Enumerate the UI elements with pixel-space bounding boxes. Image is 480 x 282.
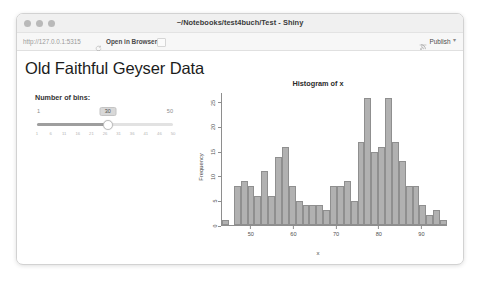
histogram-bar [248, 186, 255, 225]
y-tick-text: 5 [212, 200, 218, 203]
snapshot-button[interactable] [157, 38, 166, 47]
histogram-bar [419, 205, 426, 225]
open-in-browser-button[interactable]: Open in Browser [106, 38, 157, 45]
slider-value-bubble: 30 [99, 107, 116, 116]
slider-tick: 6 [49, 131, 51, 136]
x-tick-text: 70 [333, 231, 339, 237]
histogram-bar [261, 171, 268, 225]
histogram-bar [337, 186, 344, 225]
x-axis-tick: 90 [418, 226, 424, 237]
histogram-bar [282, 147, 289, 225]
histogram-bar [222, 220, 229, 225]
x-tick-text: 50 [248, 231, 254, 237]
y-tick-mark [218, 176, 221, 177]
app-window: ~/Notebooks/test4buch/Test - Shiny http:… [16, 13, 464, 265]
histogram-bar [254, 196, 261, 225]
url-text[interactable]: http://127.0.0.1:5315 [23, 38, 81, 45]
page-title: Old Faithful Geyser Data [25, 59, 204, 78]
histogram-bar [316, 205, 323, 225]
slider-tick: 36 [130, 131, 135, 136]
x-tick-mark [293, 226, 294, 229]
x-tick-mark [421, 226, 422, 229]
y-tick-mark [218, 226, 221, 227]
slider-label: Number of bins: [35, 93, 175, 102]
y-axis-tick: 0 [213, 223, 221, 229]
histogram-bar [406, 186, 413, 225]
publish-icon [419, 37, 427, 45]
histogram-bar [433, 210, 440, 225]
histogram-bar [351, 201, 358, 225]
y-axis-tick: 25 [210, 100, 221, 106]
y-axis-tick: 20 [210, 124, 221, 130]
slider-tick: 1 [36, 131, 38, 136]
shiny-app-content: Old Faithful Geyser Data Number of bins:… [17, 51, 463, 263]
bins-slider[interactable] [37, 119, 173, 130]
histogram-bar [399, 161, 406, 225]
chevron-down-icon[interactable]: ▾ [453, 38, 456, 44]
histogram-bar [296, 201, 303, 225]
y-tick-text: 25 [210, 100, 216, 106]
histogram-bar [392, 142, 399, 225]
histogram-bar [385, 98, 392, 225]
x-axis-tick: 80 [376, 226, 382, 237]
slider-max-label: 50 [167, 108, 173, 114]
plot-title: Histogram of x [183, 79, 453, 88]
histogram-bar [440, 220, 447, 225]
publish-control[interactable]: Publish ▾ [419, 37, 456, 45]
histogram-bar [330, 186, 337, 225]
x-tick-text: 90 [418, 231, 424, 237]
slider-tick: 26 [103, 131, 108, 136]
x-axis-tick: 60 [290, 226, 296, 237]
y-tick-text: 20 [210, 124, 216, 130]
y-tick-text: 0 [212, 225, 218, 228]
x-tick-mark [336, 226, 337, 229]
histogram-bar [268, 196, 275, 225]
y-tick-mark [218, 201, 221, 202]
histogram-bar [371, 152, 378, 225]
plot-area: 05101520255060708090 [221, 93, 447, 226]
x-tick-text: 80 [376, 231, 382, 237]
y-axis-label: Frequency [198, 153, 204, 180]
y-tick-text: 10 [210, 174, 216, 180]
x-tick-mark [250, 226, 251, 229]
publish-label: Publish [430, 38, 451, 45]
x-axis-label: x [183, 250, 453, 256]
x-axis-tick: 70 [333, 226, 339, 237]
histogram-bar [309, 205, 316, 225]
y-tick-mark [218, 102, 221, 103]
slider-tick: 46 [157, 131, 162, 136]
histogram-bar [241, 181, 248, 225]
slider-tick-labels: 16111621263136414650 [37, 131, 173, 139]
y-axis-tick: 5 [213, 198, 221, 204]
slider-tick: 50 [171, 131, 176, 136]
histogram-bar [413, 186, 420, 225]
slider-handle[interactable] [103, 120, 113, 130]
x-tick-text: 60 [290, 231, 296, 237]
x-tick-mark [378, 226, 379, 229]
x-axis-tick: 50 [248, 226, 254, 237]
histogram-bar [289, 186, 296, 225]
histogram-bar [344, 181, 351, 225]
histogram-bar [303, 205, 310, 225]
refresh-icon[interactable] [95, 38, 102, 45]
y-tick-mark [218, 127, 221, 128]
histogram-bar [275, 157, 282, 225]
slider-value-row: 1 30 50 [37, 108, 173, 117]
slider-tick: 16 [75, 131, 80, 136]
histogram-bar [234, 186, 241, 225]
slider-tick: 21 [89, 131, 94, 136]
app-toolbar: http://127.0.0.1:5315 Open in Browser Pu… [17, 33, 463, 51]
window-titlebar: ~/Notebooks/test4buch/Test - Shiny [17, 14, 463, 33]
histogram-plot: Histogram of x Frequency x 0510152025506… [183, 79, 453, 254]
slider-tick: 41 [143, 131, 148, 136]
y-axis-tick: 10 [210, 174, 221, 180]
histogram-bar [323, 210, 330, 225]
histogram-bar [364, 98, 371, 225]
histogram-bar [426, 215, 433, 225]
slider-fill [37, 123, 108, 126]
histogram-bar [358, 142, 365, 225]
sidebar-panel: Number of bins: 1 30 50 1611162126313641… [35, 93, 175, 139]
histogram-bars [222, 93, 447, 225]
slider-min-label: 1 [37, 108, 40, 114]
slider-tick: 11 [62, 131, 66, 136]
